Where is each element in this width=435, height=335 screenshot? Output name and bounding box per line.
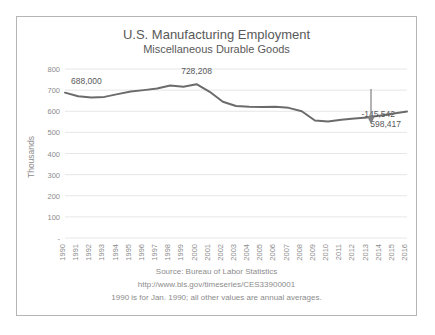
x-axis-tick: 2000 — [190, 244, 199, 261]
x-axis-tick: 1994 — [111, 244, 120, 261]
end-value-label: 598,417 — [370, 119, 401, 129]
x-axis-tick: 2007 — [282, 244, 291, 261]
x-axis-tick: 2003 — [229, 244, 238, 261]
y-axis-tick: - — [58, 234, 61, 243]
x-axis-tick: 2001 — [203, 244, 212, 261]
x-axis-tick: 2009 — [308, 244, 317, 261]
x-axis-tick: 2015 — [387, 244, 396, 261]
chart-card: U.S. Manufacturing Employment Miscellane… — [16, 16, 417, 316]
start-value-label: 688,000 — [71, 76, 102, 86]
x-axis-tick: 2012 — [347, 244, 356, 261]
chart-canvas: U.S. Manufacturing Employment Miscellane… — [17, 17, 416, 315]
footer-source: Source: Bureau of Labor Statistics — [156, 267, 277, 276]
change-label: -145,542 — [361, 109, 395, 119]
x-axis-tick: 2011 — [334, 244, 343, 260]
x-axis-tick: 2006 — [268, 244, 277, 261]
chart-subtitle: Miscellaneous Durable Goods — [143, 43, 290, 55]
chart-title: U.S. Manufacturing Employment — [123, 27, 311, 42]
x-axis-tick: 2014 — [374, 244, 383, 261]
x-axis-tick: 2005 — [255, 244, 264, 261]
peak-value-label: 728,208 — [181, 66, 212, 76]
x-axis-tick: 1993 — [97, 244, 106, 261]
y-axis-tick: 100 — [47, 213, 60, 222]
x-axis-tick: 2002 — [216, 244, 225, 261]
x-axis-tick: 1999 — [176, 244, 185, 261]
y-axis-title: Thousands — [26, 136, 36, 178]
footer-note: 1990 is for Jan. 1990; all other values … — [111, 293, 321, 302]
y-axis-tick: 700 — [47, 86, 60, 95]
x-axis-tick: 1992 — [84, 244, 93, 261]
y-axis-tick: 800 — [47, 65, 60, 74]
x-axis-tick: 1997 — [150, 244, 159, 261]
x-axis-tick: 2004 — [242, 244, 251, 261]
y-axis-tick: 500 — [47, 128, 60, 137]
x-axis-tick: 2013 — [361, 244, 370, 261]
x-axis-tick: 2016 — [400, 244, 409, 261]
y-axis-tick: 600 — [47, 107, 60, 116]
y-axis-tick: 400 — [47, 150, 60, 159]
x-axis-tick: 2010 — [321, 244, 330, 261]
x-axis-tick: 1995 — [124, 244, 133, 261]
x-axis-tick: 2008 — [295, 244, 304, 261]
x-axis-tick: 1996 — [137, 244, 146, 261]
y-axis-tick-labels: -100200300400500600700800 — [47, 65, 60, 243]
x-axis-tick: 1991 — [71, 244, 80, 261]
x-axis-tick-labels: 1990199119921993199419951996199719981999… — [58, 244, 409, 261]
footer-url: http://www.bls.gov/timeseries/CES3390000… — [138, 280, 296, 289]
x-axis-tick: 1998 — [163, 244, 172, 261]
y-axis-tick: 200 — [47, 192, 60, 201]
y-axis-tick: 300 — [47, 171, 60, 180]
x-axis-tick: 1990 — [58, 244, 67, 261]
